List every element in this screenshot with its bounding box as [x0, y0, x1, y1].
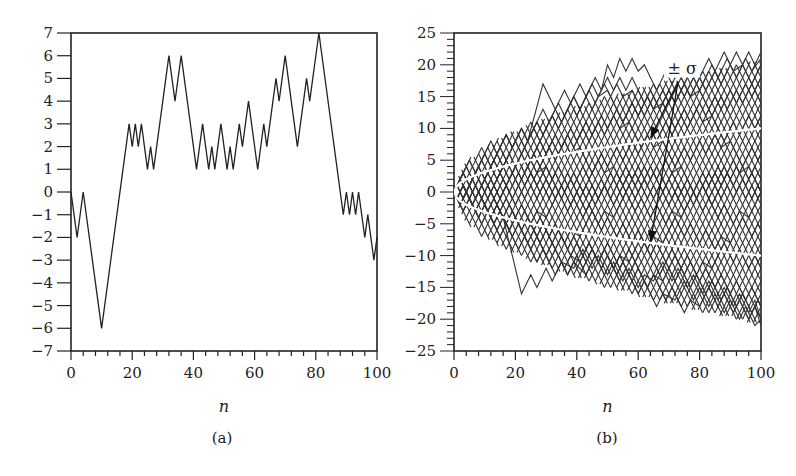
sigma-annotation: ± σ [667, 59, 696, 78]
panel-a: 020406080100n76543210−1−2−3−4−5−6−7 [31, 24, 391, 416]
y-tick-label: −2 [31, 228, 53, 246]
y-tick-label: −20 [404, 310, 436, 328]
y-tick-label: 25 [417, 24, 436, 42]
figure: 020406080100n76543210−1−2−3−4−5−6−7 0204… [0, 0, 796, 476]
y-tick-label: −6 [31, 319, 53, 337]
x-tick-label: 40 [567, 364, 586, 382]
y-tick-label: 3 [43, 115, 53, 133]
y-tick-label: −1 [31, 206, 53, 224]
y-tick-label: 15 [417, 88, 436, 106]
y-tick-label: 2 [43, 138, 53, 156]
x-tick-label: 100 [363, 364, 392, 382]
y-tick-label: −10 [404, 247, 436, 265]
y-tick-label: −5 [31, 297, 53, 315]
y-tick-label: −15 [404, 278, 436, 296]
walk-ensemble [454, 52, 761, 326]
y-tick-label: −3 [31, 251, 53, 269]
y-tick-label: 5 [43, 69, 53, 87]
y-tick-label: −4 [31, 274, 53, 292]
y-tick-label: 10 [417, 119, 436, 137]
y-tick-label: 5 [426, 151, 436, 169]
x-axis-label: n [602, 397, 612, 416]
walk-lower-4 [454, 186, 761, 326]
x-tick-label: 100 [747, 364, 776, 382]
x-axis-label: n [219, 397, 229, 416]
x-tick-label: 20 [506, 364, 525, 382]
x-tick-label: 80 [690, 364, 709, 382]
x-tick-label: 20 [123, 364, 142, 382]
y-tick-label: 0 [43, 183, 53, 201]
panel-b: 020406080100n2520151050−5−10−15−20−25± σ [404, 24, 775, 416]
x-tick-label: 0 [66, 364, 76, 382]
lattice-segment [720, 68, 761, 154]
panel-label-b: (b) [596, 429, 617, 447]
x-tick-label: 40 [184, 364, 203, 382]
x-tick-label: 60 [245, 364, 264, 382]
walk-lower-mid-2 [454, 192, 761, 249]
walk-mid-3 [454, 135, 761, 192]
walk-upper-4 [454, 84, 761, 192]
x-tick-label: 0 [449, 364, 459, 382]
y-tick-label: 7 [43, 24, 53, 42]
x-tick-label: 80 [306, 364, 325, 382]
y-tick-label: 0 [426, 183, 436, 201]
x-tick-label: 60 [629, 364, 648, 382]
y-tick-label: 20 [417, 56, 436, 74]
y-tick-label: −7 [31, 342, 53, 360]
y-tick-label: −5 [414, 215, 436, 233]
y-tick-label: −25 [404, 342, 436, 360]
random-walk-line [71, 33, 377, 328]
y-tick-label: 1 [43, 160, 53, 178]
plot-frame [71, 33, 377, 351]
y-tick-label: 6 [43, 47, 53, 65]
y-tick-label: 4 [43, 92, 53, 110]
lattice-segment [720, 230, 761, 316]
panel-label-a: (a) [212, 429, 233, 447]
